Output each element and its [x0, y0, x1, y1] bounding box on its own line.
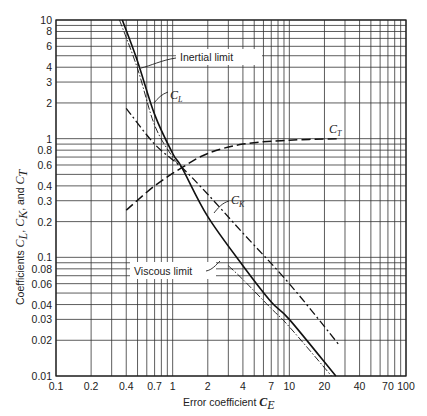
y-tick: 3: [46, 76, 52, 88]
y-tick: 8: [46, 25, 52, 37]
x-tick: 100: [397, 380, 415, 392]
inertial-limit-label: Inertial limit: [180, 51, 233, 63]
x-tick: 0.2: [84, 380, 99, 392]
y-tick: 1: [46, 133, 52, 145]
y-tick: 0.1: [37, 251, 52, 263]
y-tick-labels: 0.010.020.030.040.060.080.10.20.30.40.60…: [32, 14, 53, 382]
y-tick: 0.08: [32, 263, 53, 275]
y-tick: 0.04: [32, 299, 53, 311]
x-tick: 0.7: [147, 380, 162, 392]
y-axis-title: Coefficients CL, CK, and CT: [13, 169, 30, 305]
y-tick: 0.6: [37, 159, 52, 171]
y-tick: 0.02: [32, 334, 53, 346]
y-tick: 10: [40, 14, 52, 26]
y-tick: 0.4: [37, 180, 52, 192]
x-tick: 1: [170, 380, 176, 392]
x-tick: 10: [283, 380, 295, 392]
x-tick-labels: 0.10.20.40.7124710204070100: [49, 380, 415, 392]
y-tick: 0.2: [37, 216, 52, 228]
chart-svg: 0.010.020.030.040.060.080.10.20.30.40.60…: [0, 0, 427, 416]
x-tick: 0.4: [119, 380, 134, 392]
viscous-limit-label: Viscous limit: [134, 265, 192, 277]
x-tick: 4: [240, 380, 246, 392]
cl-label: CL: [170, 88, 183, 104]
ct-label: CT: [329, 122, 342, 138]
y-tick: 0.06: [32, 278, 53, 290]
curve-viscous-limit: [228, 266, 331, 376]
x-tick: 2: [205, 380, 211, 392]
x-tick: 20: [319, 380, 331, 392]
curves: [120, 20, 340, 376]
y-tick: 0.8: [37, 144, 52, 156]
x-tick: 40: [354, 380, 366, 392]
x-tick: 70: [382, 380, 394, 392]
x-tick: 0.1: [49, 380, 64, 392]
y-tick: 0.03: [32, 313, 53, 325]
y-tick: 4: [46, 61, 52, 73]
y-tick: 0.3: [37, 195, 52, 207]
x-tick: 7: [268, 380, 274, 392]
inertial-leader: [141, 58, 176, 68]
x-axis-title: Error coefficient CE: [183, 395, 275, 412]
y-tick: 6: [46, 40, 52, 52]
y-tick: 2: [46, 97, 52, 109]
